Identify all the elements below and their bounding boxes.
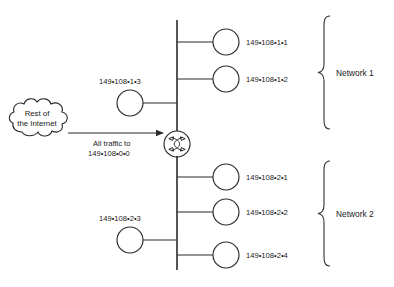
router-node[interactable] (164, 131, 190, 157)
uplink-label-line-2: 149•108•0•0 (88, 149, 130, 158)
cloud-label-line-2: the Internet (17, 119, 57, 128)
network-diagram: 149•108•1•1 149•108•1•2 149•108•1•3 Netw… (0, 0, 394, 287)
host-node-149-108-2-1[interactable] (213, 164, 239, 190)
host-label-149-108-1-1: 149•108•1•1 (246, 38, 288, 47)
host-node-149-108-1-3[interactable] (117, 90, 143, 116)
host-node-149-108-2-3[interactable] (117, 227, 143, 253)
host-label-149-108-2-2: 149•108•2•2 (246, 208, 288, 217)
host-label-149-108-2-1: 149•108•2•1 (246, 173, 288, 182)
host-label-149-108-1-2: 149•108•1•2 (246, 75, 288, 84)
host-label-149-108-2-3: 149•108•2•3 (99, 214, 141, 223)
network-2-label: Network 2 (336, 209, 374, 219)
uplink-arrowhead (156, 130, 164, 136)
host-node-149-108-1-2[interactable] (213, 66, 239, 92)
network-1-brace (318, 16, 330, 129)
cloud-label-line-1: Rest of (25, 109, 51, 118)
network-1-label: Network 1 (336, 68, 374, 78)
uplink-label-line-1: All traffic to (93, 139, 130, 148)
host-node-149-108-2-4[interactable] (213, 242, 239, 268)
host-label-149-108-2-4: 149•108•2•4 (246, 251, 288, 260)
diagram-canvas: 149•108•1•1 149•108•1•2 149•108•1•3 Netw… (0, 0, 394, 287)
host-node-149-108-2-2[interactable] (213, 199, 239, 225)
host-label-149-108-1-3: 149•108•1•3 (99, 77, 141, 86)
host-node-149-108-1-1[interactable] (213, 29, 239, 55)
network-2-brace (318, 161, 330, 266)
